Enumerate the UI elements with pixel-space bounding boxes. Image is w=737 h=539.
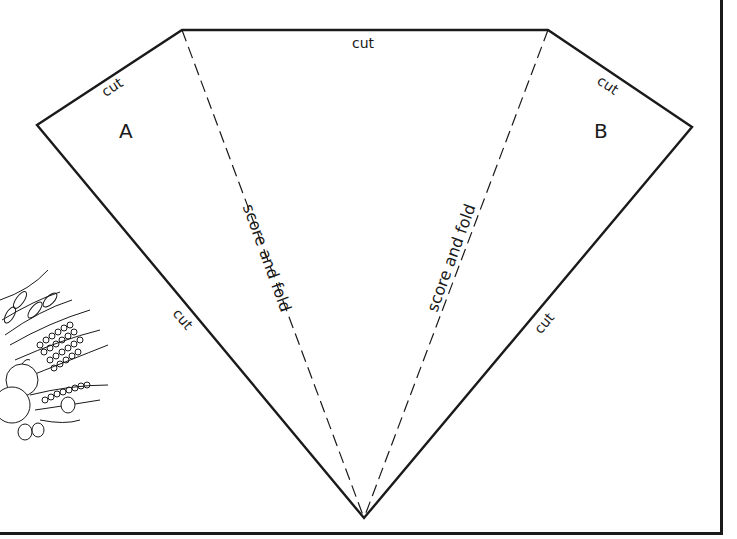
panel-letter-b: B <box>594 121 608 141</box>
panel-letter-a: A <box>119 121 133 141</box>
cut-outline <box>37 30 692 518</box>
harvest-illustration-icon <box>0 270 108 440</box>
cut-out-template: cut cut cut cut cut A B score and fold s… <box>0 0 737 539</box>
page-border-right <box>720 0 723 535</box>
page-border-bottom <box>0 532 723 535</box>
cut-label-top: cut <box>352 36 374 50</box>
fold-line-right <box>364 30 548 518</box>
